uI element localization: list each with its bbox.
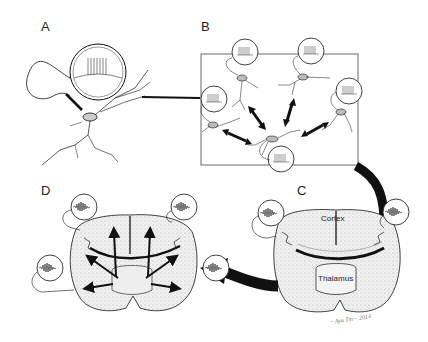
arrow-a-to-b bbox=[142, 97, 200, 98]
thalamus-label: Thalamus bbox=[318, 274, 353, 283]
panel-d-drawing bbox=[32, 194, 229, 311]
panel-a-drawing bbox=[27, 44, 150, 165]
panel-label-b: B bbox=[201, 19, 210, 34]
neuroscience-figure: A B C D Cortex Thalamus ~ Ayu Tm ~ 2014 bbox=[0, 0, 428, 342]
arrow-c-to-d bbox=[220, 270, 278, 286]
panel-b-drawing bbox=[201, 38, 362, 172]
panel-label-a: A bbox=[41, 19, 50, 34]
panel-label-d: D bbox=[41, 183, 50, 198]
figure-drawing bbox=[0, 0, 428, 342]
panel-label-c: C bbox=[297, 183, 306, 198]
cortex-label: Cortex bbox=[321, 214, 345, 223]
